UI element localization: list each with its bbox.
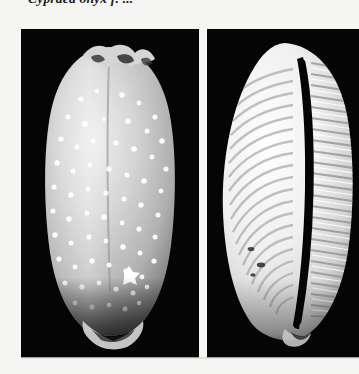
shell-specimen-plate: [0, 0, 359, 374]
photo-panel-dorsal: [21, 29, 199, 358]
dorsal-shell-photo: [21, 29, 199, 358]
photo-panel-ventral: [207, 29, 359, 358]
plate-baseline: [21, 357, 359, 359]
ventral-shell-photo: [207, 29, 359, 358]
figure-page: Cypraea onyx f. ...: [0, 0, 359, 374]
